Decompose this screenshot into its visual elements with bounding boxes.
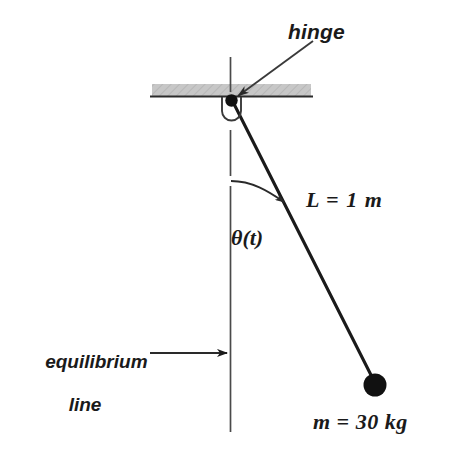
- equilibrium-line-label: equilibrium line: [24, 330, 146, 458]
- equilibrium-label-line-2: line: [24, 394, 146, 415]
- pendulum-bob-icon: [364, 374, 387, 397]
- angle-label: θ(t): [231, 226, 263, 251]
- mass-label: m = 30 kg: [313, 410, 408, 435]
- rod-length-label: L = 1 m: [306, 188, 383, 213]
- equilibrium-label-line-1: equilibrium: [45, 351, 147, 372]
- pendulum-diagram: hinge L = 1 m θ(t) equilibrium line m = …: [0, 0, 465, 474]
- pivot-dot-icon: [225, 94, 237, 106]
- hinge-label: hinge: [288, 20, 345, 44]
